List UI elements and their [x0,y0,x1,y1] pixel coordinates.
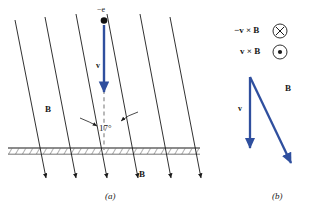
caption-a: (a) [105,192,116,201]
velocity-label-b: v [238,105,242,113]
caption-b: (b) [272,192,283,201]
into-page-circle-x-icon [273,24,287,38]
angle-leader-left [80,118,97,126]
cross-product-label-bottom: v × B [240,47,260,56]
electron-dot [101,17,108,24]
angle-label: 17° [99,124,112,133]
field-label-bottom-a: B [139,170,145,179]
velocity-label-a: v [96,62,100,70]
field-label-b: B [285,84,291,93]
field-label-left-a: B [45,105,51,114]
cross-product-label-top: −v × B [234,26,259,35]
electron-charge-label: −e [97,6,105,14]
panel-b-vectors [250,24,291,163]
angle-leader-right [121,112,138,121]
out-of-page-circle-dot-icon [273,45,287,59]
